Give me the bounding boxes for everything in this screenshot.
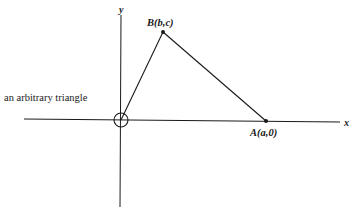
side-BA [163,32,266,121]
side-OB [121,32,163,120]
coordinate-diagram: y x B(b,c) A(a,0) [0,0,358,212]
x-axis-label: x [343,117,349,128]
vertex-B-dot [161,30,165,34]
point-B-label: B(b,c) [146,17,174,29]
point-A-label: A(a,0) [249,127,277,139]
y-axis-label: y [118,4,124,15]
x-axis [24,119,340,122]
vertex-A-dot [264,119,268,123]
y-axis [120,15,121,207]
